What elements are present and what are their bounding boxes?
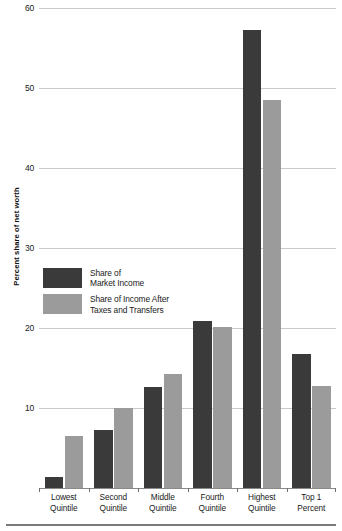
- x-axis-category-label-line: Quintile: [39, 503, 89, 514]
- x-axis-category-label-line: Fourth: [188, 492, 238, 503]
- x-axis-category-label-line: Quintile: [188, 503, 238, 514]
- bar: [213, 327, 232, 488]
- x-axis-category-label-line: Second: [89, 492, 139, 503]
- x-axis-category-label: MiddleQuintile: [138, 492, 188, 513]
- y-axis-tick-label: 60: [25, 3, 34, 13]
- x-axis-category-label: SecondQuintile: [89, 492, 139, 513]
- plot-area: [39, 8, 336, 488]
- legend-label-line-2: Taxes and Transfers: [90, 305, 169, 315]
- bar: [94, 430, 113, 488]
- legend-label-income-after-taxes: Share of Income After Taxes and Transfer…: [90, 294, 169, 314]
- legend-item-income-after-taxes: Share of Income After Taxes and Transfer…: [43, 294, 169, 314]
- x-axis-category-label: Top 1 Percent: [287, 492, 337, 513]
- bar: [312, 386, 331, 488]
- legend: Share of Market Income Share of Income A…: [43, 268, 169, 321]
- y-axis-tick-label: 20: [25, 323, 34, 333]
- x-axis-category-label-line: Highest: [237, 492, 287, 503]
- footer-divider: [6, 524, 336, 526]
- x-axis-category-label-line: Lowest: [39, 492, 89, 503]
- legend-label-line-2: Market Income: [90, 278, 144, 288]
- y-axis-tick-label: 50: [25, 83, 34, 93]
- x-axis-category-label-line: Top 1 Percent: [287, 492, 337, 513]
- legend-label-market-income: Share of Market Income: [90, 268, 144, 288]
- x-axis-category-labels: LowestQuintileSecondQuintileMiddleQuinti…: [39, 492, 336, 522]
- legend-swatch-icon-income-after-taxes: [43, 294, 82, 314]
- x-axis-category-label-line: Quintile: [89, 503, 139, 514]
- x-axis-category-label: LowestQuintile: [39, 492, 89, 513]
- bar: [164, 374, 183, 488]
- x-axis-category-label: HighestQuintile: [237, 492, 287, 513]
- bar-group: [292, 8, 331, 488]
- bar: [45, 477, 64, 488]
- bar-group: [144, 8, 183, 488]
- legend-item-market-income: Share of Market Income: [43, 268, 169, 288]
- x-axis-category-label-line: Middle: [138, 492, 188, 503]
- bar-group: [94, 8, 133, 488]
- bar-group: [193, 8, 232, 488]
- y-axis-tick-label: 30: [25, 243, 34, 253]
- y-axis-tick-label: 10: [25, 403, 34, 413]
- legend-swatch-icon-market-income: [43, 268, 82, 288]
- bar-group: [45, 8, 84, 488]
- bar-series-container: [39, 8, 336, 488]
- y-axis-tick-label: 40: [25, 163, 34, 173]
- bar: [114, 408, 133, 488]
- bar: [193, 321, 212, 488]
- bar: [65, 436, 84, 488]
- bar-group: [243, 8, 282, 488]
- y-axis-tick-labels: 102030405060: [0, 0, 39, 488]
- x-axis-category-label-line: Quintile: [237, 503, 287, 514]
- bar: [263, 100, 282, 488]
- legend-label-line-1: Share of Income After: [90, 294, 169, 304]
- bar: [292, 354, 311, 488]
- bar-chart: Percent share of net worth 102030405060 …: [0, 0, 342, 531]
- x-axis-category-label: FourthQuintile: [188, 492, 238, 513]
- bar: [243, 30, 262, 488]
- bar: [144, 387, 163, 488]
- legend-label-line-1: Share of: [90, 268, 144, 278]
- x-axis-category-label-line: Quintile: [138, 503, 188, 514]
